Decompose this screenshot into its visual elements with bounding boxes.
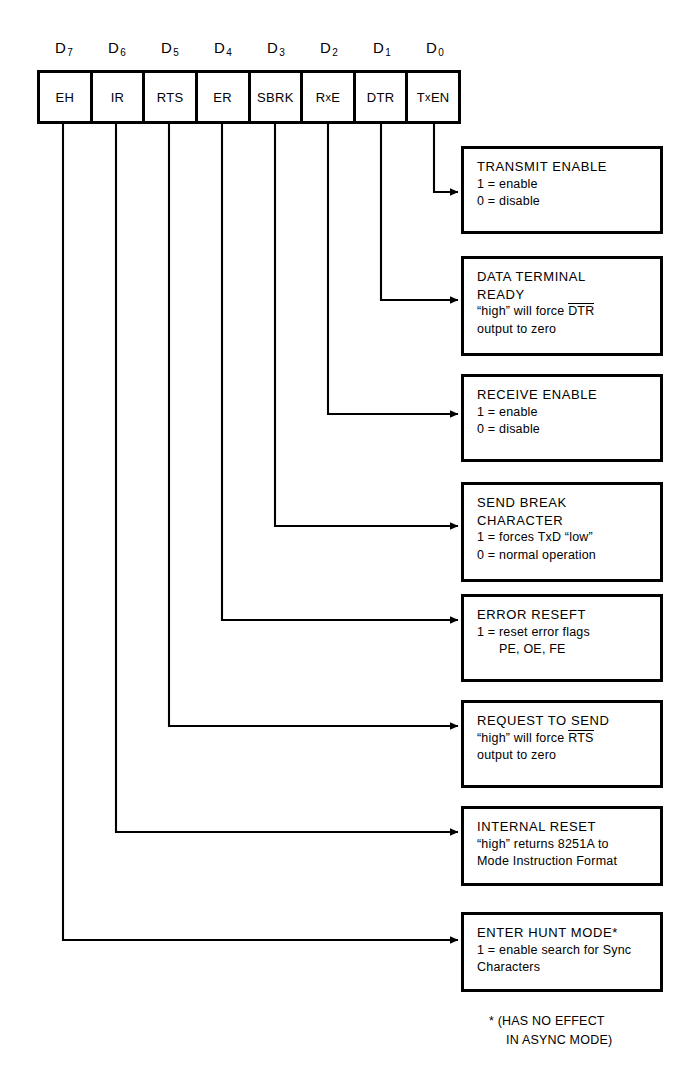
- leader-d2: [328, 124, 458, 414]
- leader-d5: [169, 124, 458, 726]
- callout-line-2: Characters: [477, 959, 660, 977]
- callout-title: SEND BREAK: [477, 494, 660, 512]
- callout-line-1: “high” returns 8251A to: [477, 836, 660, 854]
- bit-number-d0: D0: [408, 38, 461, 64]
- bit-number-d6: D6: [90, 38, 143, 64]
- bit-cell-ir: IR: [93, 73, 146, 121]
- leader-d7: [63, 124, 458, 940]
- callout-title: TRANSMIT ENABLE: [477, 158, 660, 176]
- callout-line-2: PE, OE, FE: [477, 641, 660, 659]
- bit-cell-rts: RTS: [145, 73, 198, 121]
- leader-d6: [116, 124, 458, 832]
- callout-transmit-enable: TRANSMIT ENABLE 1 = enable 0 = disable: [461, 146, 663, 234]
- callout-line-2: 0 = normal operation: [477, 547, 660, 565]
- footnote-line-1: * (HAS NO EFFECT: [489, 1012, 612, 1031]
- callout-line-2: Mode Instruction Format: [477, 853, 660, 871]
- callout-line-2: output to zero: [477, 747, 660, 765]
- callout-internal-reset: INTERNAL RESET “high” returns 8251A to M…: [461, 806, 663, 886]
- callout-title: RECEIVE ENABLE: [477, 386, 660, 404]
- bit-number-d5: D5: [143, 38, 196, 64]
- callout-send-break-character: SEND BREAK CHARACTER 1 = forces TxD “low…: [461, 482, 663, 582]
- callout-line-1: “high” will force DTR: [477, 303, 660, 321]
- command-instruction-format-diagram: D7 D6 D5 D4 D3 D2 D1 D0 EH IR RTS ER SBR…: [0, 0, 698, 1089]
- bit-cell-rxe: RxE: [303, 73, 356, 121]
- callout-title: ERROR RESEFT: [477, 606, 660, 624]
- callout-line-1: 1 = enable: [477, 176, 660, 194]
- leader-d1: [381, 124, 458, 300]
- callout-error-reset: ERROR RESEFT 1 = reset error flags PE, O…: [461, 594, 663, 682]
- callout-line-1: 1 = enable search for Sync: [477, 942, 660, 960]
- bit-field-register: EH IR RTS ER SBRK RxE DTR TxEN: [37, 70, 461, 124]
- leader-d4: [222, 124, 458, 620]
- bit-number-labels: D7 D6 D5 D4 D3 D2 D1 D0: [37, 38, 461, 64]
- callout-title-2: CHARACTER: [477, 512, 660, 530]
- callout-title: INTERNAL RESET: [477, 818, 660, 836]
- rts-overline-signal: RTS: [568, 730, 593, 746]
- callout-title: REQUEST TO SEND: [477, 712, 660, 730]
- footnote: * (HAS NO EFFECT IN ASYNC MODE): [489, 1012, 612, 1050]
- callout-line-2: 0 = disable: [477, 421, 660, 439]
- leader-d0: [434, 124, 458, 192]
- bit-number-d3: D3: [249, 38, 302, 64]
- bit-cell-dtr: DTR: [356, 73, 409, 121]
- callout-line-1: “high” will force RTS: [477, 730, 660, 748]
- dtr-overline-signal: DTR: [568, 303, 594, 319]
- bit-number-d2: D2: [302, 38, 355, 64]
- callout-enter-hunt-mode: ENTER HUNT MODE* 1 = enable search for S…: [461, 912, 663, 992]
- bit-cell-er: ER: [198, 73, 251, 121]
- bit-number-d4: D4: [196, 38, 249, 64]
- callout-receive-enable: RECEIVE ENABLE 1 = enable 0 = disable: [461, 374, 663, 462]
- bit-cell-txen: TxEN: [408, 73, 458, 121]
- callout-data-terminal-ready: DATA TERMINAL READY “high” will force DT…: [461, 256, 663, 356]
- callout-line-1: 1 = reset error flags: [477, 624, 660, 642]
- leader-d3: [275, 124, 458, 526]
- callout-title: DATA TERMINAL: [477, 268, 660, 286]
- callout-line-1: 1 = enable: [477, 404, 660, 422]
- callout-line-2: output to zero: [477, 321, 660, 339]
- footnote-line-2: IN ASYNC MODE): [489, 1031, 612, 1050]
- callout-title: ENTER HUNT MODE*: [477, 924, 660, 942]
- callout-title-2: READY: [477, 286, 660, 304]
- bit-number-d7: D7: [37, 38, 90, 64]
- bit-cell-eh: EH: [40, 73, 93, 121]
- callout-request-to-send: REQUEST TO SEND “high” will force RTS ou…: [461, 700, 663, 788]
- bit-cell-sbrk: SBRK: [251, 73, 304, 121]
- bit-number-d1: D1: [355, 38, 408, 64]
- callout-line-1: 1 = forces TxD “low”: [477, 529, 660, 547]
- callout-line-2: 0 = disable: [477, 193, 660, 211]
